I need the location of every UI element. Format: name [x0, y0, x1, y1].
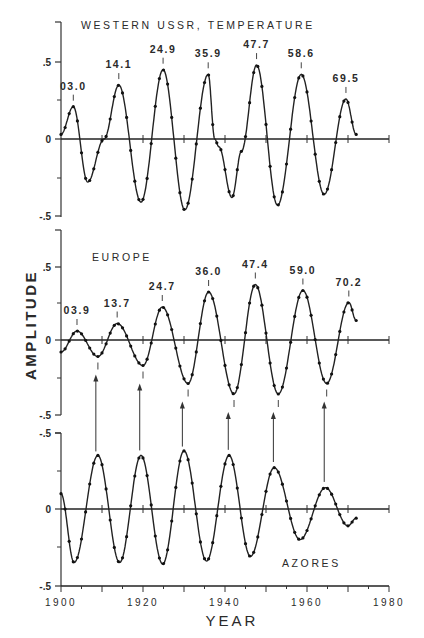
- data-point: [141, 198, 144, 201]
- data-point: [310, 119, 313, 122]
- data-point: [117, 322, 120, 325]
- data-point: [146, 177, 149, 180]
- data-point: [215, 141, 218, 144]
- data-point: [273, 195, 276, 198]
- data-point: [318, 180, 321, 183]
- arrow-head-icon: [226, 412, 231, 419]
- data-point: [223, 168, 226, 171]
- data-point: [256, 65, 259, 68]
- data-point: [260, 304, 263, 307]
- data-point: [236, 386, 239, 389]
- arrow-head-icon: [271, 412, 276, 419]
- data-point: [256, 286, 259, 289]
- data-point: [223, 462, 226, 465]
- data-point: [121, 326, 124, 329]
- peak-label: 70.2: [335, 276, 362, 288]
- data-point: [207, 290, 210, 293]
- data-point: [240, 516, 243, 519]
- data-point: [264, 332, 267, 335]
- data-point: [137, 456, 140, 459]
- data-point: [203, 299, 206, 302]
- data-point: [346, 101, 349, 104]
- panel-title-europe: EUROPE: [92, 251, 152, 263]
- data-point: [129, 504, 132, 507]
- data-point: [236, 168, 239, 171]
- data-point: [351, 520, 354, 523]
- data-point: [318, 493, 321, 496]
- data-point: [80, 537, 83, 540]
- data-point: [248, 301, 251, 304]
- data-point: [92, 167, 95, 170]
- data-point: [191, 178, 194, 181]
- data-point: [244, 135, 247, 138]
- data-point: [178, 459, 181, 462]
- data-point: [191, 482, 194, 485]
- data-point: [351, 121, 354, 124]
- y-tick-label: -.5: [39, 211, 51, 222]
- data-point: [305, 296, 308, 299]
- data-point: [277, 203, 280, 206]
- data-point: [76, 330, 79, 333]
- data-point: [88, 482, 91, 485]
- data-point: [293, 531, 296, 534]
- y-tick-label: .5: [43, 57, 52, 68]
- data-point: [211, 297, 214, 300]
- data-point: [260, 513, 263, 516]
- data-point: [232, 463, 235, 466]
- peak-label: 47.4: [242, 258, 269, 270]
- y-axis-title: AMPLITUDE: [22, 270, 39, 380]
- data-point: [96, 355, 99, 358]
- data-point: [133, 354, 136, 357]
- data-point: [310, 314, 313, 317]
- panel-title-azores: AZORES: [282, 557, 341, 569]
- data-point: [72, 105, 75, 108]
- data-point: [174, 157, 177, 160]
- data-point: [232, 194, 235, 197]
- data-point: [166, 83, 169, 86]
- data-point: [351, 308, 354, 311]
- data-point: [264, 490, 267, 493]
- data-point: [297, 76, 300, 79]
- data-point: [80, 151, 83, 154]
- data-point: [162, 562, 165, 565]
- data-point: [273, 384, 276, 387]
- data-point: [244, 331, 247, 334]
- data-point: [76, 556, 79, 559]
- data-point: [297, 296, 300, 299]
- data-point: [182, 377, 185, 380]
- data-point: [170, 519, 173, 522]
- data-point: [281, 386, 284, 389]
- data-point: [219, 339, 222, 342]
- y-tick-label: -.5: [39, 581, 51, 592]
- data-point: [187, 458, 190, 461]
- data-point: [301, 74, 304, 77]
- peak-label: 13.7: [104, 297, 131, 309]
- peak-label: 03.9: [64, 304, 91, 316]
- x-tick-label: 1960: [291, 597, 323, 608]
- data-point: [355, 517, 358, 520]
- peak-label: 35.9: [195, 47, 222, 59]
- data-point: [252, 551, 255, 554]
- peak-label: 36.0: [195, 265, 222, 277]
- data-point: [178, 364, 181, 367]
- panel-title-western-ussr: WESTERN USSR, TEMPERATURE: [81, 19, 315, 31]
- data-point: [248, 554, 251, 557]
- data-point: [154, 105, 157, 108]
- peak-label: 24.7: [149, 280, 176, 292]
- data-point: [322, 487, 325, 490]
- data-point: [322, 192, 325, 195]
- data-point: [100, 463, 103, 466]
- data-point: [59, 350, 62, 353]
- data-point: [100, 351, 103, 354]
- data-point: [215, 315, 218, 318]
- data-point: [215, 514, 218, 517]
- data-point: [76, 119, 79, 122]
- data-point: [182, 208, 185, 211]
- data-point: [305, 529, 308, 532]
- data-point: [240, 150, 243, 153]
- data-point: [96, 151, 99, 154]
- data-point: [334, 353, 337, 356]
- x-tick-label: 1980: [373, 597, 405, 608]
- data-point: [68, 340, 71, 343]
- data-point: [330, 493, 333, 496]
